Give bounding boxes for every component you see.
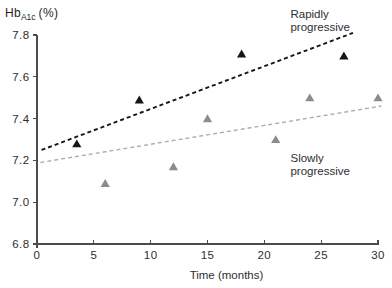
x-tick-label: 20 (258, 249, 272, 261)
marker-slowly-progressive (305, 93, 314, 101)
marker-slowly-progressive (169, 162, 178, 170)
y-tick-label: 7.0 (12, 196, 29, 208)
marker-slowly-progressive (203, 114, 212, 122)
x-tick-label: 0 (34, 249, 41, 261)
annotation-rapidly-progressive: Rapidlyprogressive (290, 8, 349, 33)
marker-rapidly-progressive (135, 95, 144, 103)
marker-rapidly-progressive (237, 50, 246, 58)
y-tick-label: 7.6 (12, 71, 29, 83)
annotation-slowly-progressive: Slowlyprogressive (290, 152, 349, 177)
trendline-rapidly-progressive (42, 33, 353, 150)
x-axis-title: Time (months) (190, 269, 264, 281)
marker-slowly-progressive (271, 135, 280, 143)
x-tick-label: 30 (371, 249, 385, 261)
marker-rapidly-progressive (339, 52, 348, 60)
x-tick-label: 5 (90, 249, 97, 261)
y-tick-label: 7.4 (12, 113, 29, 125)
chart-svg: 6.87.07.27.47.67.8051015202530Time (mont… (0, 0, 392, 288)
x-tick-label: 25 (314, 249, 328, 261)
chart-figure: HbA1c(%) 6.87.07.27.47.67.8051015202530T… (0, 0, 392, 288)
trendline-slowly-progressive (40, 106, 381, 162)
y-tick-label: 7.8 (12, 29, 29, 41)
x-tick-label: 15 (201, 249, 215, 261)
y-tick-label: 7.2 (12, 154, 29, 166)
marker-rapidly-progressive (72, 139, 81, 147)
y-tick-label: 6.8 (12, 238, 29, 250)
x-tick-label: 10 (144, 249, 158, 261)
marker-slowly-progressive (373, 93, 382, 101)
marker-slowly-progressive (101, 179, 110, 187)
